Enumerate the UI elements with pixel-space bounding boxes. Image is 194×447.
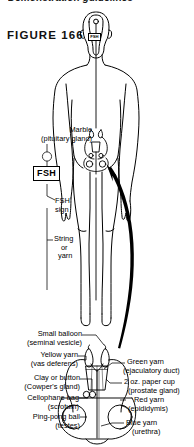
- fsh-sign-box: FSH: [33, 166, 60, 181]
- label-marble-line2: (pituitary gland): [0, 135, 92, 144]
- balloon-left: [85, 349, 93, 367]
- label-yellow-yarn: Yellow yarn (vas deferens): [0, 351, 78, 368]
- label-cellophane-line2: (scrotum): [0, 403, 79, 412]
- label-clay-button: Clay or button (Cowper's gland): [0, 374, 80, 391]
- marble-pituitary-head: [94, 19, 99, 24]
- label-cellophane-bag: Cellophane bag (scrotum): [0, 394, 79, 411]
- label-green-yarn: Green yarn (ejaculatory duct): [127, 358, 180, 375]
- label-small-balloon: Small balloon (seminal vesicle): [0, 330, 82, 347]
- label-marble-pituitary: Marble (pituitary gland): [0, 126, 92, 143]
- label-fsh-sign: FSH sign: [55, 197, 70, 214]
- label-string-yarn: String or yarn: [54, 235, 73, 261]
- label-green-line2: (ejaculatory duct): [123, 367, 180, 376]
- label-paper-cup: 2 oz. paper cup (prostate gland): [124, 378, 180, 395]
- label-yellow-line2: (vas deferens): [0, 360, 78, 369]
- label-pingpong-line2: (testes): [0, 422, 80, 431]
- balloon-right: [101, 349, 109, 367]
- label-red-line2: (epididymis): [128, 405, 168, 414]
- figure-page: Demonstration guidelines FIGURE 166: [0, 0, 194, 447]
- label-fsh-sign-line2: sign: [55, 206, 70, 215]
- cowpers-gland-right: [89, 391, 95, 397]
- label-blue-yarn: Blue yarn (urethra): [126, 419, 160, 436]
- fsh-sign-box-head: FSH: [88, 33, 101, 41]
- cowpers-gland-left: [83, 391, 89, 397]
- label-balloon-line2: (seminal vesicle): [0, 339, 82, 348]
- label-red-yarn: Red yarn (epididymis): [128, 396, 168, 413]
- label-ping-pong-ball: Ping-pong ball (testes): [0, 413, 80, 430]
- label-cup-line2: (prostate gland): [128, 387, 180, 396]
- label-string-line3: yarn: [54, 252, 73, 261]
- label-clay-line2: (Cowper's gland): [0, 383, 80, 392]
- label-blue-line2: (urethra): [132, 428, 160, 437]
